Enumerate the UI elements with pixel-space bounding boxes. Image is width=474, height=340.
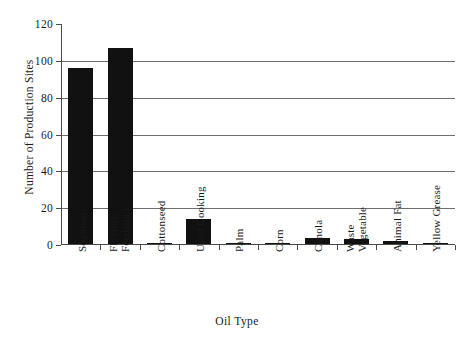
x-axis-category-label-line: Animal Fat: [392, 200, 404, 252]
x-axis-tick: [337, 245, 338, 250]
x-axis-tick: [219, 245, 220, 250]
y-axis-tick-label: 80: [41, 92, 53, 104]
x-axis-category-label-line: Vegetable: [356, 207, 368, 252]
x-axis-tick: [416, 245, 417, 250]
x-axis-category-label-line: Waste: [345, 207, 357, 252]
x-axis-category-label-line: Cottonseed: [156, 201, 168, 253]
bar-chart-figure: Number of Production Sites 0204060801001…: [0, 0, 474, 340]
x-axis-category-label-line: Yellow Grease: [431, 185, 443, 252]
x-axis-category-label-line: Palm: [234, 229, 246, 252]
x-axis-category-label-line: Soybean: [77, 213, 89, 252]
y-axis-tick-label: 40: [41, 165, 53, 177]
x-axis-category-label-line: Flexible: [108, 206, 120, 252]
x-axis-category-label-line: Canola: [313, 220, 325, 252]
x-axis-category-label-line: Corn: [274, 229, 286, 252]
y-axis-line: [61, 24, 62, 245]
y-axis-tick-label: 0: [47, 239, 53, 251]
y-axis-tick-label: 60: [41, 129, 53, 141]
x-axis-category-label-line: Used Cooking: [195, 186, 207, 252]
x-axis-tick: [258, 245, 259, 250]
x-axis-tick: [376, 245, 377, 250]
x-axis-tick: [100, 245, 101, 250]
y-axis-tick-label: 20: [41, 202, 53, 214]
y-axis-tick-label: 100: [35, 55, 53, 67]
x-axis-title: Oil Type: [0, 315, 474, 327]
y-axis-title: Number of Production Sites: [18, 2, 40, 252]
x-axis-tick: [179, 245, 180, 250]
x-axis-tick: [297, 245, 298, 250]
x-axis-tick: [140, 245, 141, 250]
x-axis-category-label-line: Feedstock: [120, 206, 132, 252]
y-axis-tick-label: 120: [35, 18, 53, 30]
x-axis-tick: [455, 245, 456, 250]
